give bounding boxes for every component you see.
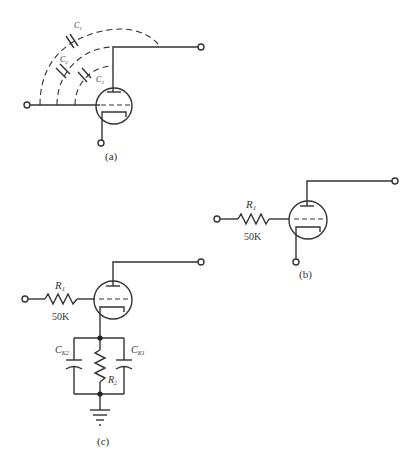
resistor-value-b: 50K [244, 231, 262, 242]
output-terminal-c [198, 259, 204, 265]
caption-c: (c) [97, 435, 110, 448]
vacuum-tube-a [96, 88, 132, 124]
input-terminal-c [22, 296, 28, 302]
figure-c: R1 50K R2 CK2 CK1 (c) [22, 259, 204, 448]
capacitor-icon [78, 68, 91, 82]
vacuum-tube-c [94, 281, 132, 319]
vacuum-tube-b [289, 201, 327, 239]
arc-middle [57, 47, 113, 105]
cap-label-ck1: CK1 [131, 344, 145, 356]
caption-b: (b) [299, 268, 312, 281]
resistor-icon [45, 294, 77, 304]
resistor-label-b: R1 [245, 198, 256, 212]
input-terminal-a [24, 102, 30, 108]
cap-label-ck2: CK2 [55, 344, 69, 356]
output-terminal-b [392, 178, 398, 184]
resistor-label-c2: R2 [107, 374, 117, 386]
capacitor-icon [66, 34, 78, 48]
ground-icon [90, 410, 110, 425]
resistor-icon [238, 214, 269, 224]
resistor-value-c1: 50K [52, 311, 70, 322]
resistor-label-c1: R1 [54, 279, 65, 293]
cathode-terminal-a [98, 140, 104, 146]
circuit-diagram: C1 C2 C3 (a) R1 50K (b) [0, 0, 420, 467]
resistor-icon [95, 350, 105, 382]
junction-node [97, 335, 102, 340]
arc-inner [75, 66, 113, 105]
capacitor-icon [56, 64, 70, 78]
figure-a: C1 C2 C3 (a) [24, 21, 204, 163]
cap-label-1: C1 [74, 21, 82, 31]
input-terminal-b [214, 216, 220, 222]
cathode-terminal-b [293, 259, 299, 265]
figure-b: R1 50K (b) [214, 178, 398, 281]
output-terminal-a [198, 44, 204, 50]
caption-a: (a) [105, 150, 118, 163]
cap-label-3: C3 [96, 75, 104, 85]
cap-label-2: C2 [60, 55, 68, 65]
